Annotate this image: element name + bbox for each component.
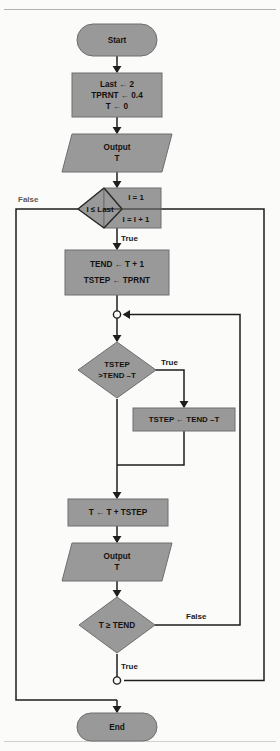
edge-label-tstep-true: True [161, 358, 178, 367]
node-output-t-2-line-1: Output [104, 552, 131, 561]
node-end[interactable]: End [77, 713, 157, 741]
edge-label-t-test-false: False [186, 612, 207, 621]
node-tstep-clamp-line-1: TSTEP ← TEND –T [149, 415, 220, 424]
node-tstep-clamp[interactable]: TSTEP ← TEND –T [133, 408, 235, 431]
node-init[interactable]: Last ← 2 TPRNT ← 0.4 T ← 0 [72, 73, 162, 117]
node-junction-bottom [113, 677, 120, 684]
node-junction-top [113, 311, 120, 318]
node-output-t-1[interactable]: Output T [62, 134, 172, 172]
node-output-t-2-line-2: T [114, 563, 119, 572]
node-tend-assign-line-1: TEND ← T + 1 [90, 260, 144, 269]
node-output-t-1-line-1: Output [104, 143, 131, 152]
node-tstep-test-line-1: TSTEP [104, 360, 129, 369]
node-loop-increment: I = I + 1 [123, 215, 150, 224]
node-init-line-3: T ← 0 [106, 102, 129, 111]
node-t-test-line-1: T ≥ TEND [99, 621, 135, 630]
node-output-t-1-line-2: T [114, 154, 119, 163]
node-end-label: End [109, 723, 124, 732]
node-t-advance[interactable]: T ← T + TSTEP [68, 499, 168, 526]
node-loop-condition: I ≤ Last [86, 205, 114, 214]
node-output-t-2[interactable]: Output T [62, 543, 172, 581]
node-start-label: Start [108, 36, 127, 45]
node-loop-init: I = 1 [128, 193, 144, 202]
node-tend-assign-line-2: TSTEP ← TPRNT [84, 276, 150, 285]
edge-label-loop-false: False [18, 195, 39, 204]
node-start[interactable]: Start [77, 24, 157, 56]
node-t-advance-line-1: T ← T + TSTEP [89, 508, 148, 517]
node-init-line-2: TPRNT ← 0.4 [91, 91, 143, 100]
node-init-line-1: Last ← 2 [100, 80, 135, 89]
flowchart-svg: Start Last ← 2 TPRNT ← 0.4 T ← 0 Output … [0, 0, 280, 751]
node-tstep-test-line-2: >TEND –T [98, 371, 136, 380]
flowchart-canvas: Start Last ← 2 TPRNT ← 0.4 T ← 0 Output … [0, 0, 280, 751]
node-tend-assign[interactable]: TEND ← T + 1 TSTEP ← TPRNT [65, 250, 169, 295]
edge-label-loop-true: True [121, 234, 138, 243]
edge-label-t-test-true: True [121, 662, 138, 671]
